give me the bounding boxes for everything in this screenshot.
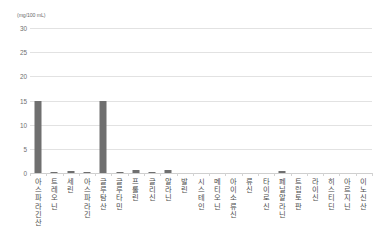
x-tick	[339, 173, 340, 176]
x-category-label: 글리신	[147, 178, 157, 203]
bar-slot[interactable]	[258, 28, 274, 173]
y-axis-tick-labels: 302520151050	[0, 28, 27, 173]
x-tick	[291, 173, 292, 176]
x-category-label: 페닐알라닌	[277, 178, 287, 219]
bar-slot[interactable]	[225, 28, 241, 173]
bar-slot[interactable]	[209, 28, 225, 173]
x-category-label: 아이소류신	[229, 178, 239, 219]
bar-slot[interactable]	[323, 28, 339, 173]
bar-slot[interactable]	[79, 28, 95, 173]
x-category-label: 아르지닌	[343, 178, 353, 211]
x-tick	[307, 173, 308, 176]
y-tick-label: 0	[3, 170, 27, 177]
x-tick	[323, 173, 324, 176]
x-category-label: 글루타민	[115, 178, 125, 211]
x-tick	[209, 173, 210, 176]
bar-chart: (mg/100 mL) 302520151050 아스파라긴산트레오닌세린아스파…	[0, 0, 381, 241]
bar-slot[interactable]	[63, 28, 79, 173]
x-tick	[30, 173, 31, 176]
bar-slot[interactable]	[274, 28, 290, 173]
bar-slot[interactable]	[160, 28, 176, 173]
x-category-label: 아스파라긴산	[33, 178, 43, 227]
x-tick	[258, 173, 259, 176]
x-tick	[160, 173, 161, 176]
bar-slot[interactable]	[144, 28, 160, 173]
bar-slot[interactable]	[30, 28, 46, 173]
x-category-label: 트립토판	[294, 178, 304, 211]
bar-slot[interactable]	[46, 28, 62, 173]
x-tick	[46, 173, 47, 176]
bar-series	[30, 28, 372, 173]
x-category-label: 아스파라긴	[82, 178, 92, 219]
x-category-label: 글루탐산	[98, 178, 108, 211]
x-category-label: 이노신산	[359, 178, 369, 211]
x-tick	[225, 173, 226, 176]
x-category-label: 시스테인	[196, 178, 206, 211]
x-tick	[372, 173, 373, 176]
y-tick-label: 20	[3, 73, 27, 80]
x-category-label: 프롤린	[131, 178, 141, 203]
y-tick-label: 5	[3, 145, 27, 152]
x-tick	[356, 173, 357, 176]
bar-slot[interactable]	[95, 28, 111, 173]
x-category-label: 류신	[245, 178, 255, 194]
x-tick	[111, 173, 112, 176]
x-axis-ticks	[30, 173, 372, 176]
bar-slot[interactable]	[307, 28, 323, 173]
x-category-label: 발린	[180, 178, 190, 194]
x-category-label: 타이로신	[261, 178, 271, 211]
bar-slot[interactable]	[193, 28, 209, 173]
x-tick	[128, 173, 129, 176]
x-tick	[95, 173, 96, 176]
x-category-label: 세린	[66, 178, 76, 194]
bar-slot[interactable]	[111, 28, 127, 173]
y-tick-label: 25	[3, 49, 27, 56]
x-category-label: 메티오닌	[212, 178, 222, 211]
bar[interactable]	[35, 101, 42, 174]
x-category-label: 라이신	[310, 178, 320, 203]
bar-slot[interactable]	[242, 28, 258, 173]
x-tick	[193, 173, 194, 176]
bar-slot[interactable]	[177, 28, 193, 173]
y-tick-label: 10	[3, 121, 27, 128]
x-axis-category-labels: 아스파라긴산트레오닌세린아스파라긴글루탐산글루타민프롤린글리신알라닌발린시스테인…	[30, 178, 372, 238]
x-category-label: 트레오닌	[49, 178, 59, 211]
x-tick	[242, 173, 243, 176]
y-axis-unit-label: (mg/100 mL)	[17, 12, 45, 18]
bar-slot[interactable]	[339, 28, 355, 173]
y-tick-label: 30	[3, 25, 27, 32]
x-tick	[274, 173, 275, 176]
x-tick	[177, 173, 178, 176]
plot-area	[30, 28, 372, 173]
bar[interactable]	[100, 101, 107, 174]
x-category-label: 히스티딘	[326, 178, 336, 211]
x-tick	[63, 173, 64, 176]
x-category-label: 알라닌	[163, 178, 173, 203]
bar-slot[interactable]	[128, 28, 144, 173]
y-tick-label: 15	[3, 97, 27, 104]
x-tick	[144, 173, 145, 176]
x-tick	[79, 173, 80, 176]
bar-slot[interactable]	[356, 28, 372, 173]
bar-slot[interactable]	[291, 28, 307, 173]
